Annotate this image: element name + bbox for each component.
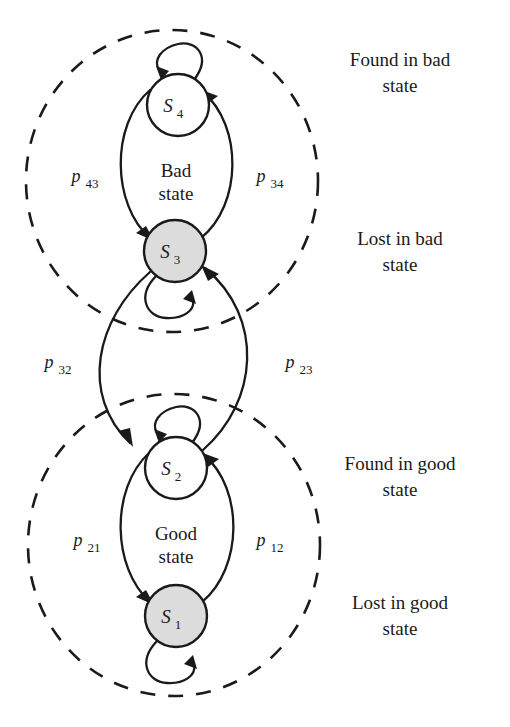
state-node-S3-circle[interactable]: [144, 220, 206, 282]
state-node-S1-label: S: [161, 606, 171, 627]
group-label-good-line1: Good: [155, 523, 198, 544]
annotation-lost-in-bad-line2: state: [383, 254, 418, 275]
group-label-good-line2: state: [159, 546, 194, 567]
transition-label-p32-base: p: [43, 352, 54, 372]
state-node-S2-circle[interactable]: [145, 437, 207, 499]
edge-p23-path: [203, 268, 247, 450]
transition-label-p12-base: p: [255, 530, 266, 550]
state-node-S2-label: S: [161, 458, 171, 479]
transition-label-p34-base: p: [255, 166, 266, 186]
state-node-S3-subscript: 3: [174, 252, 181, 267]
annotation-lost-in-bad-line1: Lost in bad: [357, 228, 443, 249]
transition-label-p32-subscript: 32: [59, 362, 72, 377]
self-loop-S1-arrowhead: [184, 655, 197, 669]
state-node-S4-subscript: 4: [177, 106, 184, 121]
state-node-S2[interactable]: S 2: [145, 437, 207, 499]
edge-p43-path: [121, 90, 150, 238]
transition-label-p12: p 12: [255, 530, 284, 555]
annotation-lost-in-good-line1: Lost in good: [352, 592, 449, 613]
state-node-S4[interactable]: S 4: [147, 74, 209, 136]
transition-label-p34-subscript: 34: [271, 176, 285, 191]
transition-label-p43-base: p: [70, 166, 81, 186]
transition-label-p21-subscript: 21: [88, 540, 101, 555]
transition-label-p23: p 23: [284, 352, 313, 377]
state-node-S4-label: S: [163, 95, 173, 116]
transition-label-p43-subscript: 43: [86, 176, 99, 191]
transition-label-p21: p 21: [72, 530, 101, 555]
state-node-S3[interactable]: S 3: [144, 220, 206, 282]
state-node-S2-subscript: 2: [175, 469, 182, 484]
annotation-lost-in-good-line2: state: [383, 618, 418, 639]
annotation-found-in-good-line1: Found in good: [345, 453, 456, 474]
transition-label-p12-subscript: 12: [271, 540, 284, 555]
state-node-S3-label: S: [160, 241, 170, 262]
transition-label-p21-base: p: [72, 530, 83, 550]
annotation-found-in-good-line2: state: [383, 479, 418, 500]
transition-label-p34: p 34: [255, 166, 285, 191]
transition-label-p32: p 32: [43, 352, 72, 377]
annotation-found-in-bad-line1: Found in bad: [350, 49, 451, 70]
group-label-bad-line1: Bad: [161, 160, 192, 181]
edge-p32-path: [100, 272, 150, 443]
edges-between-groups: [100, 265, 248, 450]
state-diagram-root: S 4 S 3 S 2 S 1 Bad: [0, 0, 510, 727]
side-annotations: Found in bad state Lost in bad state Fou…: [345, 49, 456, 639]
group-label-bad-line2: state: [159, 183, 194, 204]
state-node-S1-circle[interactable]: [145, 585, 207, 647]
state-node-S4-circle[interactable]: [147, 74, 209, 136]
state-node-S1[interactable]: S 1: [145, 585, 207, 647]
annotation-found-in-bad-line2: state: [383, 75, 418, 96]
self-loop-S3-arrowhead: [183, 290, 196, 304]
transition-label-p23-subscript: 23: [300, 362, 313, 377]
transition-label-p43: p 43: [70, 166, 99, 191]
state-diagram-canvas: S 4 S 3 S 2 S 1 Bad: [0, 0, 510, 727]
state-node-S1-subscript: 1: [175, 617, 182, 632]
transition-label-p23-base: p: [284, 352, 295, 372]
edge-p32-arrowhead: [118, 428, 133, 447]
